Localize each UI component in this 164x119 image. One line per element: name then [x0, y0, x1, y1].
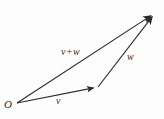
vector-sum-label-right: w — [73, 46, 80, 57]
vector-addition-figure: O v w v+w — [0, 0, 164, 119]
vector-sum-label: v+w — [61, 47, 80, 57]
vector-w-label: w — [127, 52, 134, 62]
origin-label: O — [4, 99, 12, 110]
vector-w-arrow — [98, 17, 152, 87]
vector-sum-operator: + — [65, 46, 73, 57]
vector-v-label: v — [56, 96, 60, 106]
vector-diagram-canvas — [0, 0, 164, 119]
